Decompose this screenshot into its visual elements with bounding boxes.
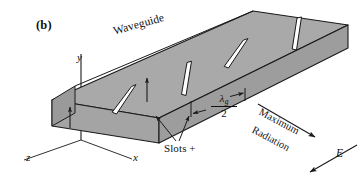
panel-letter: (b): [36, 19, 52, 32]
spacing-denominator: 2: [209, 108, 239, 120]
spacing-label: λg 2: [209, 93, 239, 119]
lambda-subscript: g: [225, 97, 229, 106]
e-field-label: E: [336, 148, 343, 160]
figure-canvas: [0, 0, 363, 182]
axis-line-z: [24, 140, 81, 160]
e-field-arrow-group: [310, 145, 357, 172]
slotted-waveguide-figure: (b) Waveguide y x z Slots + Maximum Radi…: [0, 0, 363, 182]
e-field-arrow: [310, 145, 357, 172]
axis-label-x: x: [133, 152, 138, 163]
axis-label-y: y: [77, 52, 82, 63]
axis-label-z: z: [26, 152, 30, 163]
slots-label: Slots +: [164, 143, 196, 154]
axis-line-x: [81, 140, 132, 159]
waveguide-body: [52, 11, 348, 143]
lambda-symbol: λ: [220, 92, 225, 104]
spacing-numerator: λg: [209, 93, 239, 106]
